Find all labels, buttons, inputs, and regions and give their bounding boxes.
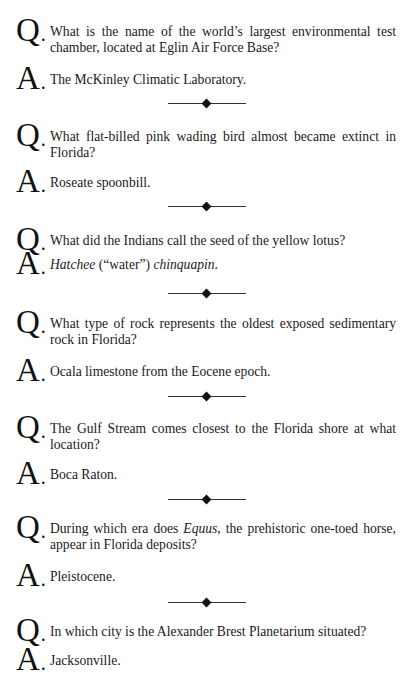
question-2: Q. What flat-billed pink wading bird alm… bbox=[16, 129, 396, 161]
answer-text: Ocala limestone from the Eocene epoch. bbox=[50, 364, 396, 380]
answer-3: A. Hatchee (“water”) chinquapin. bbox=[16, 257, 396, 273]
separator bbox=[168, 597, 246, 607]
qa-item-1: Q. What is the name of the world’s large… bbox=[16, 24, 396, 56]
question-text: What did the Indians call the seed of th… bbox=[50, 233, 396, 249]
answer-text: Jacksonville. bbox=[50, 653, 396, 669]
a-label: A. bbox=[16, 63, 46, 97]
q-label: Q. bbox=[16, 15, 46, 49]
question-3: Q. What did the Indians call the seed of… bbox=[16, 233, 396, 249]
a-label: A. bbox=[16, 644, 46, 676]
qa-item-6: Q. During which era does Equus, the preh… bbox=[16, 521, 396, 553]
a-label: A. bbox=[16, 248, 46, 282]
separator bbox=[168, 201, 246, 211]
q-label: Q. bbox=[16, 120, 46, 154]
question-text: During which era does Equus, the prehist… bbox=[50, 521, 396, 553]
a-label: A. bbox=[16, 355, 46, 389]
a-label: A. bbox=[16, 560, 46, 594]
answer-5: A. Boca Raton. bbox=[16, 467, 396, 483]
answer-2: A. Roseate spoonbill. bbox=[16, 175, 396, 191]
diamond-rule-icon bbox=[202, 98, 212, 108]
qa-item-4: Q. What type of rock represents the olde… bbox=[16, 316, 396, 348]
answer-6: A. Pleistocene. bbox=[16, 569, 396, 585]
answer-1: A. The McKinley Climatic Laboratory. bbox=[16, 72, 396, 88]
answer-text: The McKinley Climatic Laboratory. bbox=[50, 72, 396, 88]
question-text: What flat-billed pink wading bird almost… bbox=[50, 129, 396, 161]
question-text: What is the name of the world’s largest … bbox=[50, 24, 396, 56]
q-label: Q. bbox=[16, 307, 46, 341]
separator bbox=[168, 391, 246, 401]
diamond-rule-icon bbox=[202, 597, 212, 607]
answer-4: A. Ocala limestone from the Eocene epoch… bbox=[16, 364, 396, 380]
q-label: Q. bbox=[16, 512, 46, 546]
a-label: A. bbox=[16, 458, 46, 492]
question-text: The Gulf Stream comes closest to the Flo… bbox=[50, 421, 396, 453]
a-label: A. bbox=[16, 166, 46, 200]
question-5: Q. The Gulf Stream comes closest to the … bbox=[16, 421, 396, 453]
answer-7: A. Jacksonville. bbox=[16, 653, 396, 669]
question-6: Q. During which era does Equus, the preh… bbox=[16, 521, 396, 553]
question-7: Q. In which city is the Alexander Brest … bbox=[16, 624, 396, 640]
qa-item-3: Q. What did the Indians call the seed of… bbox=[16, 233, 396, 249]
question-text: What type of rock represents the oldest … bbox=[50, 316, 396, 348]
separator bbox=[168, 288, 246, 298]
answer-text: Roseate spoonbill. bbox=[50, 175, 396, 191]
question-4: Q. What type of rock represents the olde… bbox=[16, 316, 396, 348]
diamond-rule-icon bbox=[202, 288, 212, 298]
diamond-rule-icon bbox=[202, 201, 212, 211]
answer-text: Boca Raton. bbox=[50, 467, 396, 483]
diamond-rule-icon bbox=[202, 494, 212, 504]
answer-text: Hatchee (“water”) chinquapin. bbox=[50, 257, 396, 273]
qa-item-2: Q. What flat-billed pink wading bird alm… bbox=[16, 129, 396, 161]
separator bbox=[168, 494, 246, 504]
question-1: Q. What is the name of the world’s large… bbox=[16, 24, 396, 56]
q-label: Q. bbox=[16, 412, 46, 446]
qa-item-5: Q. The Gulf Stream comes closest to the … bbox=[16, 421, 396, 453]
qa-item-7: Q. In which city is the Alexander Brest … bbox=[16, 624, 396, 640]
diamond-rule-icon bbox=[202, 391, 212, 401]
answer-text: Pleistocene. bbox=[50, 569, 396, 585]
separator bbox=[168, 98, 246, 108]
question-text: In which city is the Alexander Brest Pla… bbox=[50, 624, 396, 640]
